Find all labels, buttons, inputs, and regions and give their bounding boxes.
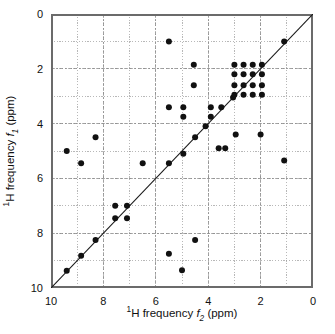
data-point — [259, 62, 265, 68]
nmr-cosy-scatter-figure: 0246810 1086420 1H frequency f2 (ppm) 1H… — [0, 0, 335, 334]
data-point — [180, 104, 186, 110]
y-axis-tick-label: 2 — [37, 63, 43, 74]
x-axis-tick-label: 8 — [100, 296, 106, 307]
x-axis-title: 1H frequency f2 (ppm) — [127, 308, 238, 320]
data-point — [250, 92, 256, 98]
data-point — [259, 82, 265, 88]
data-point — [93, 134, 99, 140]
data-point — [208, 104, 214, 110]
data-point — [231, 92, 237, 98]
x-axis-tick-label: 4 — [205, 296, 211, 307]
data-point — [78, 253, 84, 259]
data-point — [180, 114, 186, 120]
data-point — [250, 71, 256, 77]
x-axis-title-main: H frequency — [131, 307, 196, 319]
data-point — [231, 71, 237, 77]
data-point — [191, 62, 197, 68]
data-point — [216, 145, 222, 151]
data-point — [78, 160, 84, 166]
data-point — [250, 62, 256, 68]
data-point — [166, 38, 172, 44]
data-point — [192, 237, 198, 243]
x-axis-tick-label: 2 — [258, 296, 264, 307]
data-point — [231, 82, 237, 88]
y-axis-tick-label: 10 — [31, 283, 43, 294]
data-point — [112, 203, 118, 209]
data-point — [233, 132, 239, 138]
data-point — [218, 104, 224, 110]
data-point — [222, 145, 228, 151]
y-axis-tick-label: 0 — [37, 9, 43, 20]
data-point — [208, 114, 214, 120]
data-point — [241, 62, 247, 68]
plot-canvas — [51, 14, 313, 288]
data-point — [203, 123, 209, 129]
x-axis-title-units: (ppm) — [204, 307, 237, 319]
y-axis-tick-label: 8 — [37, 228, 43, 239]
y-axis-title-symbol: f — [4, 133, 16, 136]
y-axis-tick-label: 6 — [37, 173, 43, 184]
y-axis-title-units: (ppm) — [4, 96, 16, 129]
data-point — [166, 160, 172, 166]
data-point — [166, 251, 172, 257]
data-point — [241, 71, 247, 77]
data-point — [192, 134, 198, 140]
data-point — [64, 268, 70, 274]
data-point — [93, 237, 99, 243]
data-point — [124, 215, 130, 221]
data-point — [250, 82, 256, 88]
data-point — [64, 148, 70, 154]
data-point — [124, 203, 130, 209]
x-axis-tick-label: 6 — [153, 296, 159, 307]
data-point — [241, 82, 247, 88]
data-point-markers — [64, 38, 287, 273]
data-point — [140, 160, 146, 166]
data-point — [180, 151, 186, 157]
y-axis-title: 1H frequency f1 (ppm) — [5, 96, 17, 207]
data-point — [191, 82, 197, 88]
data-point — [281, 158, 287, 164]
data-point — [281, 38, 287, 44]
data-point — [241, 92, 247, 98]
y-axis-title-superscript: 1 — [2, 202, 11, 207]
data-point — [166, 104, 172, 110]
data-point — [259, 92, 265, 98]
data-point — [112, 215, 118, 221]
data-point — [231, 62, 237, 68]
data-point — [179, 267, 185, 273]
data-point — [258, 132, 264, 138]
x-axis-tick-label: 10 — [45, 296, 57, 307]
y-axis-title-symbol-subscript: 1 — [11, 129, 20, 134]
y-axis-tick-label: 4 — [37, 118, 43, 129]
x-axis-tick-label: 0 — [310, 296, 316, 307]
plot-area — [51, 14, 313, 288]
data-point — [259, 71, 265, 77]
y-axis-title-main: H frequency — [4, 137, 16, 202]
